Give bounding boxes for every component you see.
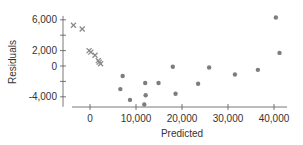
x-axis-label: Predicted: [161, 128, 203, 139]
data-points: [71, 15, 282, 106]
y-tick-label: 2,000: [32, 45, 57, 56]
dot-point: [233, 72, 237, 76]
x-tick-label: 30,000: [213, 113, 244, 124]
y-tick-label: 0: [51, 61, 57, 72]
x-marker-point: [80, 27, 85, 32]
dot-point: [196, 82, 200, 86]
x-marker-point: [88, 50, 93, 55]
x-tick-label: 0: [87, 113, 93, 124]
y-tick-label: -4,000: [29, 91, 58, 102]
dot-point: [171, 65, 175, 69]
x-marker-point: [98, 61, 103, 66]
dot-point: [256, 68, 260, 72]
dot-point: [173, 92, 177, 96]
dot-point: [277, 51, 281, 55]
y-tick-label: 6,000: [32, 14, 57, 25]
y-axis: 6,0002,0000-4,000: [29, 14, 66, 107]
dot-point: [274, 15, 278, 19]
dot-point: [128, 98, 132, 102]
dot-point: [143, 93, 147, 97]
x-tick-label: 20,000: [167, 113, 198, 124]
residual-scatter-chart: 6,0002,0000-4,000 010,00020,00030,00040,…: [0, 0, 303, 145]
x-tick-label: 40,000: [259, 113, 290, 124]
dot-point: [156, 81, 160, 85]
dot-point: [143, 81, 147, 85]
x-axis: 010,00020,00030,00040,000: [72, 104, 290, 124]
x-marker-point: [93, 53, 98, 58]
x-marker-point: [71, 23, 76, 28]
dot-point: [120, 74, 124, 78]
y-axis-label: Residuals: [7, 40, 18, 84]
dot-point: [118, 87, 122, 91]
dot-point: [142, 102, 146, 106]
x-tick-label: 10,000: [121, 113, 152, 124]
chart-svg: 6,0002,0000-4,000 010,00020,00030,00040,…: [0, 0, 303, 145]
dot-point: [207, 65, 211, 69]
